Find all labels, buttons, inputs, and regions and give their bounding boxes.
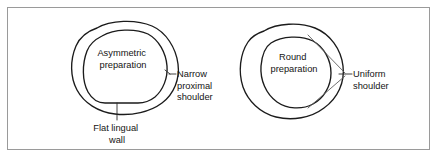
narrow-shoulder-line1: Narrow [177,69,207,79]
diagram-canvas: Asymmetric preparation Narrow proximal s… [0,0,439,158]
flat-lingual-wall-label: Flat lingual wall [93,123,141,145]
narrow-proximal-shoulder-label: Narrow proximal shoulder [177,69,215,102]
uniform-shoulder-line1: Uniform [353,69,386,79]
right-inner-label-line1: Round [279,52,306,62]
figure-root: Asymmetric preparation Narrow proximal s… [0,0,439,158]
flat-lingual-wall-line2: wall [108,135,125,145]
left-inner-label-line2: preparation [99,60,146,70]
right-inner-label-line2: preparation [270,64,317,74]
narrow-shoulder-line3: shoulder [177,92,213,102]
uniform-shoulder-leader-lower [308,76,345,108]
narrow-shoulder-line2: proximal [177,81,212,91]
right-inner-label: Round preparation [270,52,317,74]
uniform-shoulder-label: Uniform shoulder [353,69,389,91]
left-inner-label: Asymmetric preparation [97,48,148,70]
uniform-shoulder-line2: shoulder [353,81,389,91]
left-preparation-group: Asymmetric preparation Narrow proximal s… [72,21,215,144]
right-preparation-group: Round preparation Uniform shoulder [240,24,388,119]
left-inner-label-line1: Asymmetric [97,48,146,58]
flat-lingual-wall-line1: Flat lingual [93,123,138,133]
